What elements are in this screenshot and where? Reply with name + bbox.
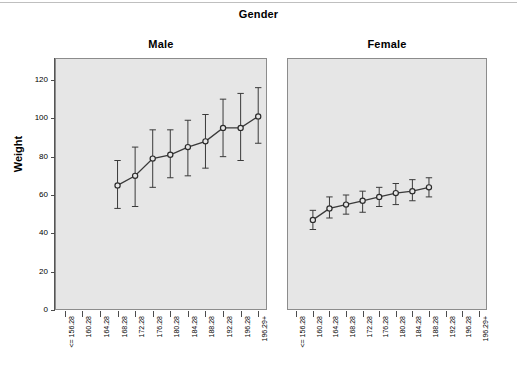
x-tick-mark: [412, 311, 413, 317]
x-tick-label: 176.28: [382, 316, 389, 337]
panel-title-female: Female: [287, 38, 487, 50]
y-tick-label: 20: [22, 268, 48, 276]
y-tick-mark: [51, 157, 55, 158]
x-tick-mark: [379, 311, 380, 317]
x-tick-label: <= 156.28: [299, 316, 306, 348]
x-tick-mark: [258, 311, 259, 317]
x-tick-label: 196.28: [244, 316, 251, 337]
x-tick-mark: [170, 311, 171, 317]
x-tick-mark: [479, 311, 480, 317]
x-tick-label: 184.28: [415, 316, 422, 337]
x-tick-label: 164.28: [103, 316, 110, 337]
x-tick-mark: [135, 311, 136, 317]
x-tick-mark: [241, 311, 242, 317]
x-tick-label: 168.28: [349, 316, 356, 337]
x-tick-mark: [446, 311, 447, 317]
x-tick-label: 160.28: [316, 316, 323, 337]
y-tick-label: 60: [22, 191, 48, 199]
x-tick-mark: [188, 311, 189, 317]
male-panel: [55, 58, 267, 310]
x-tick-label: 180.28: [173, 316, 180, 337]
x-tick-label: 196.28: [465, 316, 472, 337]
x-tick-mark: [329, 311, 330, 317]
x-tick-label: 188.28: [432, 316, 439, 337]
x-tick-label: 196.29+: [261, 316, 268, 342]
y-tick-mark: [51, 118, 55, 119]
x-tick-label: 172.28: [366, 316, 373, 337]
x-tick-mark: [313, 311, 314, 317]
y-tick-label: 120: [22, 76, 48, 84]
x-tick-mark: [100, 311, 101, 317]
y-tick-mark: [51, 233, 55, 234]
x-tick-label: 176.28: [156, 316, 163, 337]
y-tick-label: 0: [22, 306, 48, 314]
x-tick-label: 160.28: [85, 316, 92, 337]
top-divider-line: [0, 2, 517, 3]
x-tick-label: 192.28: [226, 316, 233, 337]
x-tick-mark: [396, 311, 397, 317]
y-tick-mark: [51, 272, 55, 273]
panel-title-male: Male: [55, 38, 267, 50]
x-tick-mark: [153, 311, 154, 317]
x-tick-mark: [346, 311, 347, 317]
y-tick-mark: [51, 195, 55, 196]
x-tick-mark: [65, 311, 66, 317]
x-tick-mark: [205, 311, 206, 317]
x-tick-label: 180.28: [399, 316, 406, 337]
female-panel: [287, 58, 487, 310]
x-tick-label: 192.28: [449, 316, 456, 337]
x-tick-mark: [462, 311, 463, 317]
x-tick-label: 188.28: [208, 316, 215, 337]
y-tick-mark: [51, 80, 55, 81]
y-tick-label: 40: [22, 229, 48, 237]
y-tick-mark: [51, 310, 55, 311]
x-tick-mark: [82, 311, 83, 317]
x-tick-label: <= 156.28: [68, 316, 75, 348]
x-tick-mark: [296, 311, 297, 317]
x-tick-mark: [223, 311, 224, 317]
chart-title: Gender: [0, 8, 517, 20]
x-tick-label: 168.28: [121, 316, 128, 337]
y-tick-label: 100: [22, 114, 48, 122]
x-tick-mark: [429, 311, 430, 317]
x-tick-mark: [118, 311, 119, 317]
x-tick-label: 184.28: [191, 316, 198, 337]
x-tick-label: 172.28: [138, 316, 145, 337]
x-tick-label: 164.28: [332, 316, 339, 337]
x-tick-mark: [363, 311, 364, 317]
y-tick-label: 80: [22, 153, 48, 161]
x-tick-label: 196.29+: [482, 316, 489, 342]
chart-root: Gender Male Female Weight 02040608010012…: [0, 0, 517, 368]
